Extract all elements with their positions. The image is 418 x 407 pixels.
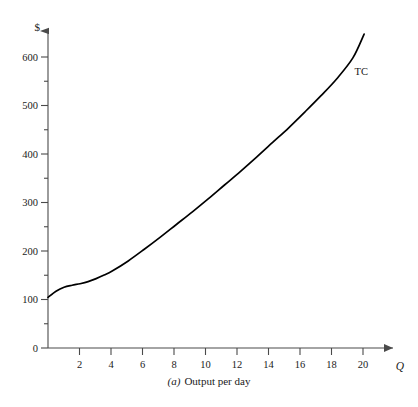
- chart-svg: 0 100 200 300 400 500 600 2 4 6 8 10 12 …: [0, 0, 418, 407]
- total-cost-chart: 0 100 200 300 400 500 600 2 4 6 8 10 12 …: [0, 0, 418, 407]
- x-tick-label-8: 8: [171, 359, 176, 370]
- x-tick-label-16: 16: [295, 359, 306, 370]
- x-tick-label-2: 2: [77, 359, 82, 370]
- x-tick-label-20: 20: [358, 359, 369, 370]
- y-tick-label-200: 200: [22, 246, 38, 257]
- y-axis-title: $: [35, 21, 41, 33]
- x-tick-label-4: 4: [108, 359, 114, 370]
- y-tick-label-100: 100: [22, 294, 38, 305]
- x-tick-label-6: 6: [140, 359, 145, 370]
- caption-letter: (a): [168, 375, 181, 387]
- y-tick-label-300: 300: [22, 197, 38, 208]
- total-cost-curve: [48, 34, 364, 297]
- figure-caption: (a)Output per day: [0, 375, 418, 387]
- y-axis-major-ticks: [41, 57, 48, 348]
- y-tick-label-600: 600: [22, 52, 38, 63]
- x-axis-title: Q: [396, 360, 405, 372]
- y-tick-label-0: 0: [33, 343, 38, 354]
- x-tick-label-10: 10: [200, 359, 211, 370]
- x-tick-label-14: 14: [263, 359, 274, 370]
- x-tick-label-12: 12: [232, 359, 243, 370]
- y-tick-label-400: 400: [22, 149, 38, 160]
- x-tick-label-18: 18: [326, 359, 337, 370]
- x-axis-ticks: [80, 348, 364, 355]
- curve-label-tc: TC: [355, 66, 368, 77]
- y-tick-label-500: 500: [22, 100, 38, 111]
- caption-text: Output per day: [184, 375, 250, 387]
